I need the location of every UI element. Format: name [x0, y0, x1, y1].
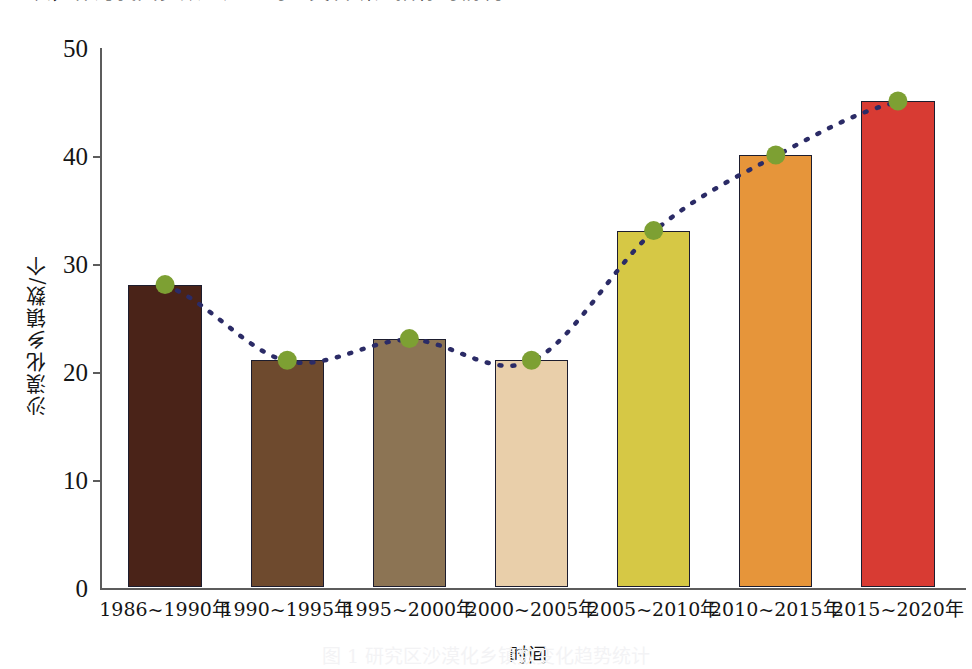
x-axis-tick-label: 1995~2000年	[344, 600, 476, 619]
y-axis-tick-label: 40	[63, 144, 88, 169]
bar	[861, 101, 934, 587]
y-axis-title: 沙漠化乡镇数/个	[22, 253, 51, 416]
x-axis-tick-label: 1990~1995年	[221, 600, 353, 619]
x-axis-tick-label: 2015~2020年	[832, 600, 964, 619]
bar	[373, 339, 446, 587]
bar	[617, 231, 690, 587]
x-axis-tick-label: 2000~2005年	[466, 600, 598, 619]
y-axis-tick-label: 20	[63, 360, 88, 385]
y-axis-tick-mark	[93, 480, 100, 482]
chart-plot-area: 01020304050 1986~1990年1990~1995年1995~200…	[100, 48, 955, 588]
y-axis-tick-label: 10	[63, 468, 88, 493]
y-axis-tick-label: 30	[63, 252, 88, 277]
bar	[495, 360, 568, 587]
bar	[251, 360, 324, 587]
y-axis-tick-mark	[93, 264, 100, 266]
y-axis-tick-label: 50	[63, 36, 88, 61]
bar	[128, 285, 201, 587]
x-axis-tick-label: 2005~2010年	[588, 600, 720, 619]
figure-caption-faint: 图 1 研究区沙漠化乡镇数变化趋势统计	[0, 641, 972, 668]
y-axis-tick-mark	[93, 372, 100, 374]
y-axis-line	[100, 48, 102, 589]
x-axis-line	[100, 588, 966, 590]
x-axis-tick-label: 1986~1990年	[99, 600, 231, 619]
y-axis-tick-label: 0	[76, 576, 89, 601]
chart-figure: 01020304050 1986~1990年1990~1995年1995~200…	[0, 0, 972, 669]
y-axis-tick-mark	[93, 156, 100, 158]
bar	[739, 155, 812, 587]
x-axis-tick-label: 2010~2015年	[710, 600, 842, 619]
